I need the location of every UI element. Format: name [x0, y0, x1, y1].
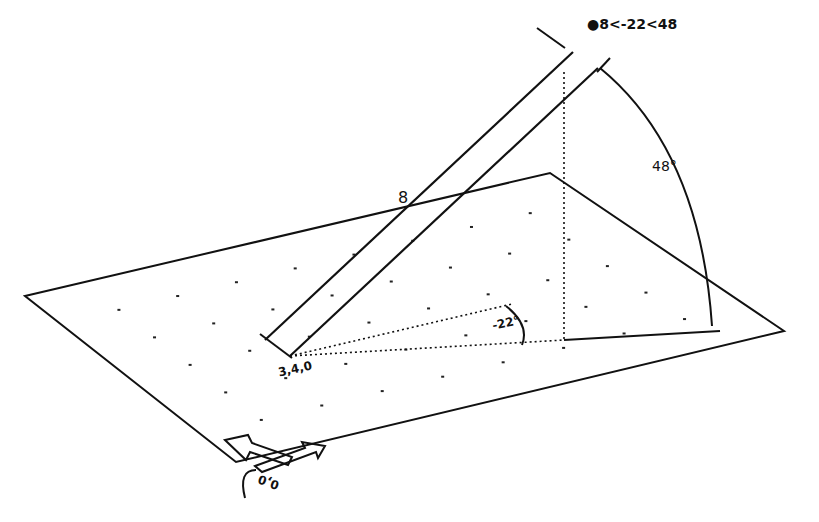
extension-line-tip-2 — [566, 48, 582, 52]
z-angle-arc — [600, 68, 712, 326]
grid-dots — [117, 212, 686, 421]
coordinate-entry-label: ●8<-22<48 — [587, 16, 677, 32]
coordinate-text: 8<-22<48 — [599, 16, 677, 32]
dimension-line — [265, 52, 573, 340]
extension-line-tip — [537, 28, 565, 48]
xy-plane — [25, 173, 784, 462]
distance-label: 8 — [398, 188, 408, 207]
z-angle-label: 48° — [652, 158, 677, 174]
vector-line — [290, 68, 598, 356]
x-axis-reference-dotted — [290, 304, 512, 356]
extension-line-base — [260, 334, 292, 358]
projection-solid — [564, 331, 720, 340]
at-symbol-icon: ● — [587, 16, 599, 32]
drawing-canvas — [0, 0, 819, 522]
